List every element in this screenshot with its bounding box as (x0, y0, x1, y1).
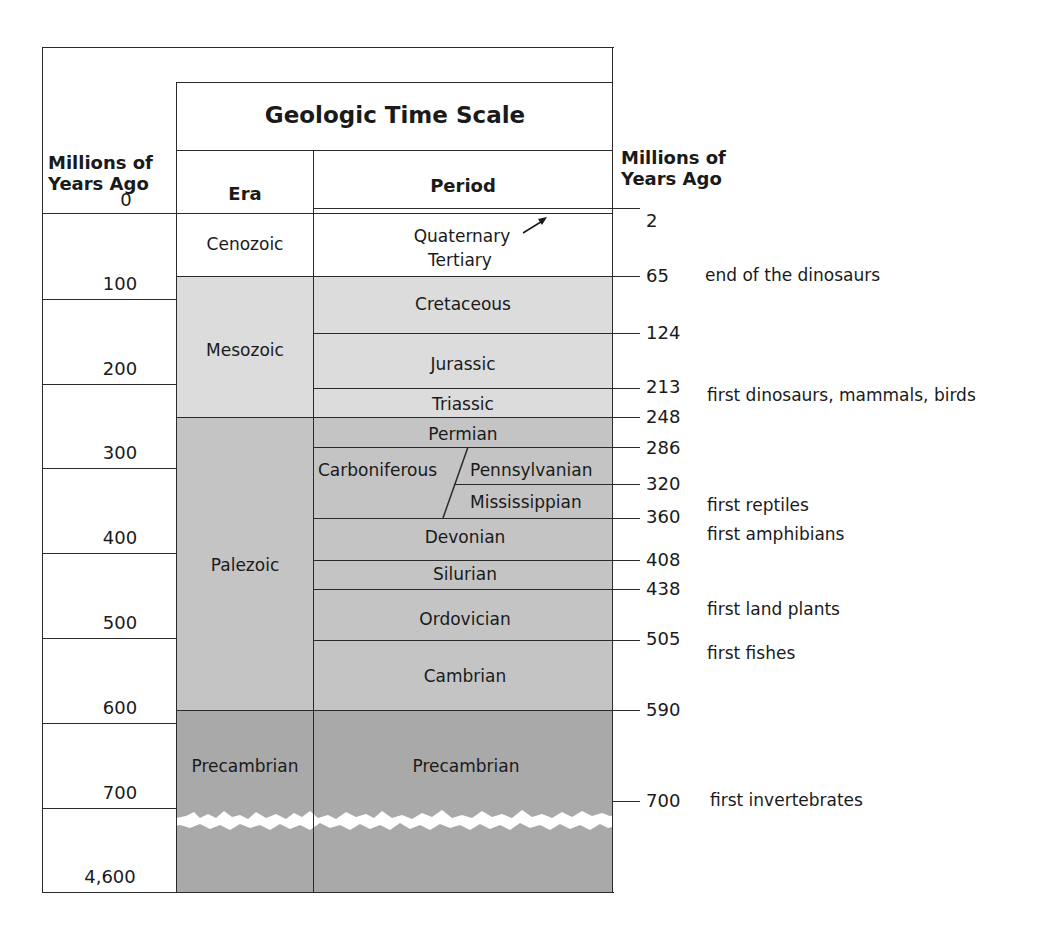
right-tick-248: 248 (646, 406, 680, 427)
period-line-65 (313, 276, 640, 277)
period-silurian: Silurian (433, 564, 497, 584)
precambrian-fill (177, 711, 613, 892)
right-tick-590: 590 (646, 699, 680, 720)
event-first-fishes: first fishes (707, 643, 795, 663)
frame-top (42, 47, 614, 48)
period-cretaceous: Cretaceous (415, 294, 511, 314)
left-tick-200: 200 (103, 358, 137, 379)
tick-700 (613, 801, 640, 802)
period-jurassic: Jurassic (431, 354, 496, 374)
right-tick-408: 408 (646, 549, 680, 570)
frame-left (42, 47, 43, 893)
era-line-590 (176, 710, 313, 711)
scale-line-500 (42, 638, 176, 639)
right-tick-213: 213 (646, 376, 680, 397)
era-period-divider (313, 150, 314, 893)
event-first-amphibians: first amphibians (707, 524, 844, 544)
scale-line-700 (42, 808, 176, 809)
period-devonian: Devonian (425, 527, 506, 547)
period-cambrian: Cambrian (424, 666, 507, 686)
period-quaternary: Quaternary (414, 226, 511, 246)
period-line-2 (313, 208, 640, 209)
arrow-icon (520, 214, 550, 236)
period-line-124 (313, 333, 640, 334)
scale-line-100 (42, 299, 176, 300)
left-tick-500: 500 (103, 612, 137, 633)
scale-line-200 (42, 384, 176, 385)
period-line-248 (313, 417, 640, 418)
right-tick-124: 124 (646, 322, 680, 343)
era-mesozoic: Mesozoic (206, 340, 284, 360)
period-line-360 (313, 518, 640, 519)
left-tick-400: 400 (103, 527, 137, 548)
era-line-248 (176, 417, 313, 418)
carboniferous-divider (430, 447, 470, 519)
right-tick-65: 65 (646, 265, 669, 286)
event-first-dinosaurs: first dinosaurs, mammals, birds (707, 385, 976, 405)
right-tick-286: 286 (646, 437, 680, 458)
period-ordovician: Ordovician (419, 609, 510, 629)
left-tick-300: 300 (103, 442, 137, 463)
left-axis-header: Millions of Years Ago (48, 152, 153, 194)
period-line-213 (313, 388, 640, 389)
period-column-header: Period (430, 175, 496, 196)
chart-title: Geologic Time Scale (265, 102, 525, 128)
period-mississippian: Mississippian (470, 492, 582, 512)
period-permian: Permian (428, 424, 497, 444)
left-tick-0: 0 (120, 189, 131, 210)
frame-bottom (42, 892, 614, 893)
event-first-invertebrates: first invertebrates (710, 790, 863, 810)
right-tick-2: 2 (646, 210, 657, 231)
scale-line-300 (42, 468, 176, 469)
right-tick-320: 320 (646, 473, 680, 494)
left-tick-4600: 4,600 (84, 866, 136, 887)
period-tertiary: Tertiary (428, 250, 492, 270)
scale-divider (176, 82, 177, 893)
period-line-408 (313, 560, 640, 561)
period-line-438 (313, 589, 640, 590)
left-tick-100: 100 (103, 273, 137, 294)
event-first-land-plants: first land plants (707, 599, 840, 619)
event-end-dinosaurs: end of the dinosaurs (705, 265, 880, 285)
right-tick-438: 438 (646, 578, 680, 599)
era-line-65 (176, 276, 313, 277)
era-precambrian: Precambrian (191, 756, 298, 776)
period-pennsylvanian: Pennsylvanian (470, 460, 592, 480)
period-line-590 (313, 710, 640, 711)
period-precambrian: Precambrian (412, 756, 519, 776)
period-carboniferous: Carboniferous (318, 460, 437, 480)
frame-right (612, 47, 613, 893)
right-axis-header: Millions of Years Ago (621, 147, 726, 189)
scale-line-400 (42, 553, 176, 554)
period-line-320 (455, 484, 640, 485)
left-tick-600: 600 (103, 697, 137, 718)
era-cenozoic: Cenozoic (207, 234, 284, 254)
event-first-reptiles: first reptiles (707, 495, 809, 515)
period-line-505 (313, 640, 640, 641)
title-bottom (176, 150, 613, 151)
right-tick-505: 505 (646, 628, 680, 649)
period-line-286 (313, 447, 640, 448)
right-tick-360: 360 (646, 506, 680, 527)
title-top (176, 82, 613, 83)
period-triassic: Triassic (432, 394, 494, 414)
right-tick-700: 700 (646, 790, 680, 811)
era-column-header: Era (228, 183, 261, 204)
era-paleozoic: Palezoic (211, 555, 279, 575)
scale-line-600 (42, 723, 176, 724)
time-break-icon (176, 806, 616, 836)
left-tick-700: 700 (103, 782, 137, 803)
